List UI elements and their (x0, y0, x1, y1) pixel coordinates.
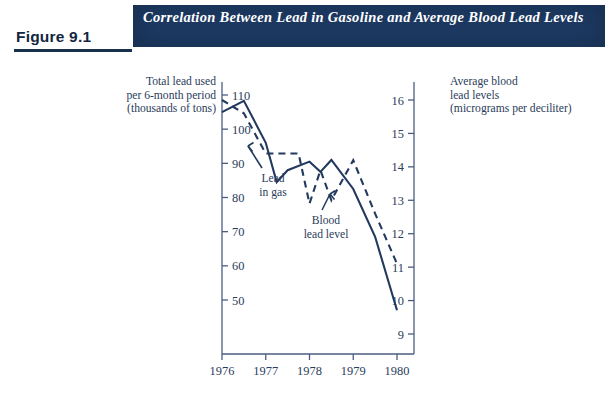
right-axis-tick-label: 12 (392, 227, 404, 241)
x-axis-tick-label: 1978 (297, 364, 322, 378)
right-axis-tick-label: 9 (398, 328, 404, 342)
figure-header: Figure 9.1 Correlation Between Lead in G… (0, 0, 616, 62)
right-axis-tick-label: 15 (392, 127, 404, 141)
left-axis-tick-label: 60 (232, 259, 244, 273)
right-axis: 161514131211109 (392, 82, 414, 354)
left-axis-tick-label: 90 (232, 157, 244, 171)
x-axis-tick-label: 1980 (385, 364, 410, 378)
right-axis-tick-label: 13 (392, 194, 404, 208)
leader-blood-lead-level (322, 194, 330, 210)
chart-area: Total lead used per 6-month period (thou… (0, 62, 616, 405)
left-axis-tick-label: 70 (232, 225, 244, 239)
right-axis-tick-label: 16 (392, 94, 404, 108)
figure-title-bar: Correlation Between Lead in Gasoline and… (133, 5, 605, 47)
left-axis: 1101009080706050 (222, 82, 251, 354)
leader-lead-in-gas-arrowhead-b (248, 143, 254, 147)
x-axis-tick-label: 1977 (253, 364, 278, 378)
left-axis-tick-label: 110 (232, 89, 250, 103)
right-axis-tick-label: 11 (392, 261, 404, 275)
figure-title: Correlation Between Lead in Gasoline and… (143, 9, 595, 26)
chart-svg: 1101009080706050 161514131211109 1976197… (0, 62, 616, 405)
left-axis-tick-label: 100 (232, 123, 251, 137)
x-axis-tick-label: 1979 (341, 364, 366, 378)
left-axis-tick-label: 50 (232, 294, 244, 308)
left-axis-tick-label: 80 (232, 191, 244, 205)
figure-underline-rule (14, 49, 132, 52)
x-axis: 19761977197819791980 (210, 354, 414, 378)
x-axis-tick-label: 1976 (210, 364, 235, 378)
figure-number-label: Figure 9.1 (16, 28, 91, 46)
right-axis-tick-label: 14 (392, 160, 404, 174)
